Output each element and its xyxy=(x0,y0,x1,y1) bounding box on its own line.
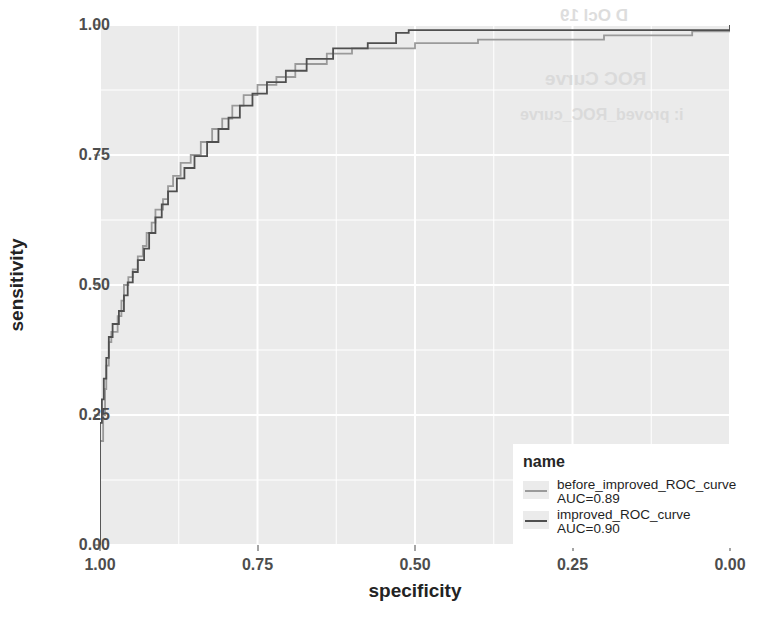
x-tick-mark xyxy=(415,545,416,551)
roc-curve-chart: 0.000.250.500.751.001.000.750.500.250.00… xyxy=(0,0,784,625)
legend-entry: improved_ROC_curveAUC=0.90 xyxy=(523,508,736,536)
legend-entry-auc: AUC=0.90 xyxy=(557,522,691,536)
legend-entry: before_improved_ROC_curveAUC=0.89 xyxy=(523,478,736,506)
legend-key-swatch xyxy=(523,481,549,499)
legend-entry-auc: AUC=0.89 xyxy=(557,492,736,506)
x-tick-label: 0.25 xyxy=(557,556,588,574)
y-tick-mark xyxy=(94,25,100,26)
legend: name before_improved_ROC_curveAUC=0.89im… xyxy=(513,444,748,548)
y-axis-title: sensitivity xyxy=(0,25,34,545)
x-tick-mark xyxy=(100,545,101,551)
x-axis-title: specificity xyxy=(100,580,730,602)
legend-title: name xyxy=(523,453,736,471)
x-tick-label: 1.00 xyxy=(84,556,115,574)
legend-key-swatch xyxy=(523,511,549,529)
x-tick-mark xyxy=(257,545,258,551)
y-tick-mark xyxy=(94,415,100,416)
legend-entry-label: before_improved_ROC_curveAUC=0.89 xyxy=(557,478,736,506)
y-tick-mark xyxy=(94,155,100,156)
y-axis-title-text: sensitivity xyxy=(6,239,28,332)
legend-items: before_improved_ROC_curveAUC=0.89improve… xyxy=(523,478,736,536)
legend-entry-label: improved_ROC_curveAUC=0.90 xyxy=(557,508,691,536)
x-tick-label: 0.50 xyxy=(399,556,430,574)
x-tick-label: 0.00 xyxy=(714,556,745,574)
x-tick-label: 0.75 xyxy=(242,556,273,574)
y-tick-mark xyxy=(94,285,100,286)
